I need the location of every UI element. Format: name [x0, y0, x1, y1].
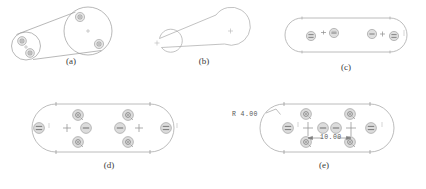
concentric-icon — [301, 109, 312, 120]
engineering-figure: (a) (b) — [0, 0, 426, 189]
center-mark-a — [24, 29, 90, 49]
concentric-icon — [73, 137, 84, 148]
horizontal-icon — [367, 29, 376, 38]
tangent-marker-icon — [321, 31, 326, 35]
horizontal-icon — [318, 123, 329, 134]
equal-icon — [283, 123, 294, 134]
center-mark-b — [155, 29, 234, 46]
equal-icon — [34, 123, 45, 134]
panel-b: (b) — [142, 0, 266, 70]
horizontal-icon — [115, 123, 126, 134]
horizontal-icon — [81, 123, 92, 134]
panel-e: R 4.00 10.00 (e) — [222, 94, 426, 189]
concentric-icon — [18, 37, 27, 46]
center-mark-icon — [63, 124, 71, 132]
caption-e: (e) — [222, 160, 426, 170]
profile-outline-b — [160, 7, 251, 52]
panel-d: (d) — [14, 94, 204, 189]
length-dimension-label: 10.00 — [320, 134, 342, 141]
concentric-icon — [345, 109, 356, 120]
panel-a: (a) — [0, 0, 142, 70]
horizontal-icon — [331, 123, 342, 134]
obround-outline-c — [285, 18, 407, 52]
caption-b: (b) — [142, 56, 266, 66]
equal-icon — [366, 123, 377, 134]
center-mark-icon — [346, 122, 356, 136]
concentric-icon — [123, 110, 134, 121]
horizontal-icon — [329, 28, 338, 37]
concentric-icon — [75, 12, 84, 21]
radius-dimension-label: R 4.00 — [232, 111, 258, 118]
equal-icon — [389, 31, 398, 40]
constraint-group-a — [18, 12, 104, 57]
panel-e-drawing — [222, 94, 426, 189]
caption-a: (a) — [0, 56, 142, 66]
tangent-marker-icon — [380, 32, 385, 37]
concentric-icon — [123, 137, 134, 148]
center-mark-icon — [303, 122, 313, 136]
caption-c: (c) — [266, 62, 426, 72]
equal-icon — [306, 31, 315, 40]
caption-d: (d) — [14, 160, 204, 170]
concentric-icon — [73, 110, 84, 121]
equal-icon — [161, 123, 172, 134]
panel-d-drawing — [14, 94, 204, 189]
center-mark-icon — [135, 124, 143, 132]
panel-c: (c) — [266, 0, 426, 78]
concentric-icon — [94, 39, 103, 48]
tangent-line-top-a — [17, 12, 76, 35]
obround-outline-d — [32, 104, 174, 152]
